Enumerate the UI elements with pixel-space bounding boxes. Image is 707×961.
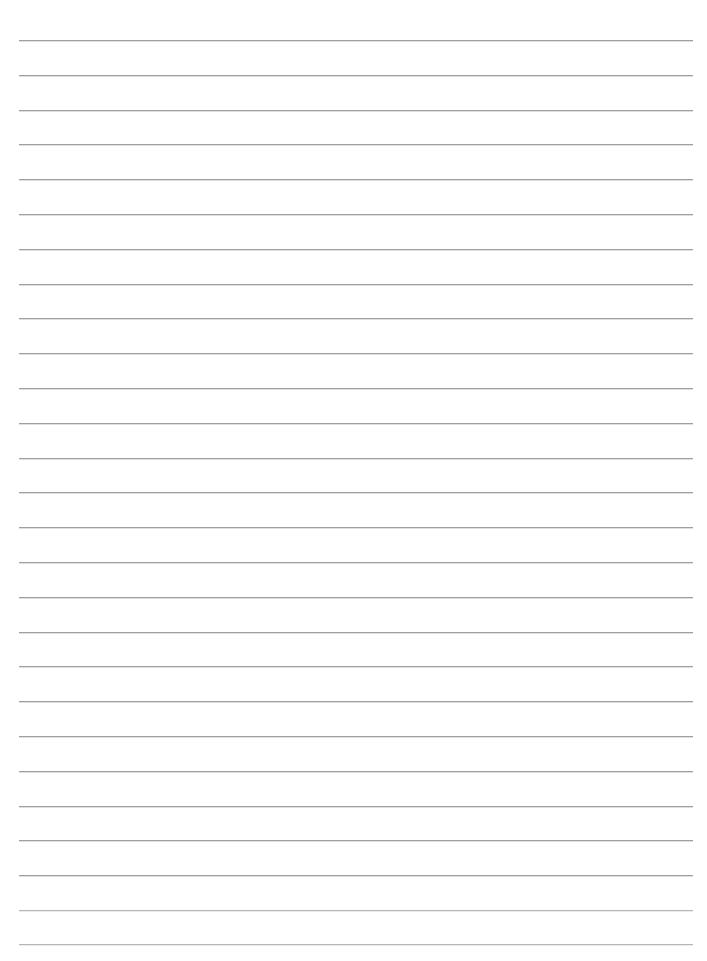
rule-line: [19, 875, 693, 876]
rule-line: [19, 597, 693, 598]
rule-line: [19, 701, 693, 702]
rule-line: [19, 458, 693, 459]
lined-paper-page: [0, 0, 707, 961]
rule-line: [19, 492, 693, 493]
rule-line: [19, 179, 693, 180]
rule-line: [19, 284, 693, 285]
rule-line: [19, 527, 693, 528]
rule-line: [19, 318, 693, 319]
rule-line: [19, 736, 693, 737]
rule-line: [19, 423, 693, 424]
rule-line: [19, 40, 693, 41]
rule-line: [19, 214, 693, 215]
rule-line: [19, 562, 693, 563]
rule-line: [19, 353, 693, 354]
rule-line: [19, 632, 693, 633]
rule-line: [19, 144, 693, 145]
rule-line: [19, 666, 693, 667]
rule-line: [19, 110, 693, 111]
rule-line: [19, 75, 693, 76]
rule-line: [19, 388, 693, 389]
rule-line: [19, 771, 693, 772]
rule-line: [19, 910, 693, 911]
rule-line: [19, 806, 693, 807]
rule-line: [19, 249, 693, 250]
rule-line: [19, 840, 693, 841]
rule-line: [19, 944, 693, 945]
ruled-lines-layer: [0, 0, 707, 961]
